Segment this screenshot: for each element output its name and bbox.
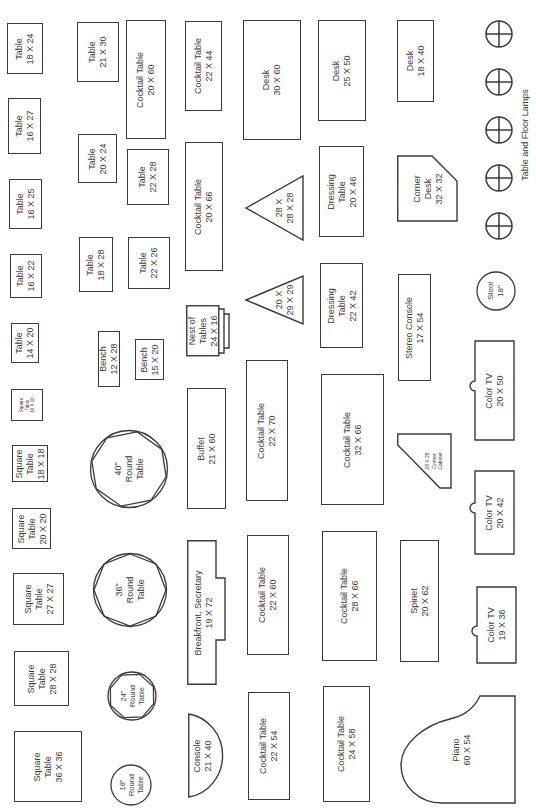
label: Desk 25 X 50: [331, 55, 353, 86]
label: 36" Round Table: [114, 577, 147, 604]
corner-desk: Corner Desk 32 X 32: [397, 155, 459, 222]
label: Piano 60 X 54: [451, 734, 473, 765]
cocktail-table-24x58: Cocktail Table 24 X 58: [323, 686, 370, 802]
cocktail-table-32x66: Cocktail Table 32 X 66: [321, 374, 384, 505]
label: Nest of Tables 24 X 16: [187, 315, 220, 346]
round-table-24in: 24" Round Table: [107, 671, 157, 721]
label: Desk 18 X 40: [405, 45, 427, 76]
console: Console 21 X 40: [188, 713, 228, 798]
label: Table 16 X 22: [15, 260, 37, 291]
lamp-icon: [486, 165, 512, 191]
label: Breakfront, Secretary 19 X 72: [193, 570, 215, 655]
lamp-icons: [484, 20, 514, 240]
label: Table 22 X 28: [137, 161, 159, 192]
lamp-icon: [486, 21, 512, 47]
lamps-caption: Table and Floor Lamps: [520, 80, 530, 190]
corner-cabinet: 28 X 28 Corner Cabinet: [397, 433, 452, 489]
table-21x30: Table 21 X 30: [77, 22, 119, 82]
label: Color TV 20 X 50: [484, 373, 506, 408]
table-18x28: Table 18 X 28: [79, 237, 113, 292]
label: Cocktail Table 22 X 54: [258, 718, 280, 774]
lamp-icon: [486, 117, 512, 143]
label: 28 X 28 X 28: [274, 192, 296, 223]
label: Table 18 X 28: [85, 249, 107, 280]
label: Square Table 16 X 16: [19, 397, 36, 413]
table-16x25: Table 16 X 25: [9, 179, 42, 229]
dressing-table-22x42: Dressing Table 22 X 42: [320, 263, 363, 348]
table-22x28: Table 22 X 28: [127, 149, 169, 205]
lamp-icon: [486, 69, 512, 95]
square-table-36x36: Square Table 36 X 36: [14, 731, 82, 802]
label: Bench 12 X 28: [98, 343, 120, 374]
label: Cocktail Table 22 X 70: [256, 403, 278, 459]
lamp-icon: [486, 213, 512, 239]
label: Stool 18": [486, 282, 506, 300]
label: Table 20 X 24: [87, 143, 109, 174]
table-20x24: Table 20 X 24: [78, 134, 117, 183]
label: Color TV 20 X 42: [484, 495, 506, 530]
label: Cocktail Table 32 X 66: [342, 412, 364, 468]
label: Bench 15 X 20: [139, 344, 161, 375]
label: Dressing Table 20 X 46: [325, 174, 358, 210]
label: Square Table 18 X 18: [14, 448, 47, 479]
label: Table 21 X 30: [87, 36, 109, 67]
label: 20 X 29 X 29: [274, 284, 296, 315]
label: Spinet 20 X 62: [409, 585, 431, 616]
table-22x26: Table 22 X 26: [128, 237, 170, 289]
cocktail-table-28x66: Cocktail Table 28 X 66: [322, 531, 377, 661]
stereo-console: Stereo Console 17 X 54: [398, 274, 431, 381]
label: Stereo Console 17 X 54: [404, 296, 426, 358]
label: Cocktail Table 28 X 66: [339, 568, 361, 624]
label: 40" Round Table: [113, 456, 146, 483]
label: Cocktail Table 22 X 44: [193, 38, 215, 94]
nest-of-tables: Nest of Tables 24 X 16: [186, 305, 231, 357]
label: 18" Round Table: [118, 774, 145, 796]
square-table-28x28: Square Table 28 X 28: [14, 651, 69, 706]
desk-30x60: Desk 30 X 60: [243, 20, 301, 140]
label: Table 18 X 24: [14, 33, 36, 64]
label: Corner Desk 32 X 32: [412, 173, 445, 204]
label: 28 X 28 Corner Cabinet: [424, 452, 444, 469]
piano: Piano 60 X 54: [400, 695, 516, 805]
label: Square Table 36 X 36: [32, 751, 65, 782]
label: Square Table 20 X 20: [15, 513, 48, 544]
triangle-table-20: 20 X 29 X 29: [245, 275, 305, 325]
label: Color TV 19 X 36: [486, 607, 508, 642]
cocktail-table-20x66: Cocktail Table 20 X 66: [185, 142, 223, 271]
label: Square Table 28 X 28: [25, 663, 58, 694]
bench-15x20: Bench 15 X 20: [135, 339, 164, 380]
label: Table 16 X 25: [15, 188, 37, 219]
cocktail-table-20x60: Cocktail Table 20 X 60: [126, 20, 166, 139]
color-tv-20x42: Color TV 20 X 42: [469, 470, 515, 555]
stool: Stool 18": [476, 270, 516, 312]
label: 24" Round Table: [119, 685, 146, 707]
round-table-18in: 18" Round Table: [110, 764, 152, 806]
round-table-36in: 36" Round Table: [92, 552, 168, 628]
cocktail-table-22x60: Cocktail Table 22 X 60: [247, 535, 289, 655]
round-table-40in: 40" Round Table: [89, 429, 169, 509]
desk-18x40: Desk 18 X 40: [397, 20, 434, 102]
table-14x20: Table 14 X 20: [11, 323, 39, 363]
triangle-table-28: 28 X 28 X 28: [245, 175, 305, 241]
cocktail-table-22x54: Cocktail Table 22 X 54: [248, 692, 290, 800]
spinet: Spinet 20 X 62: [400, 540, 439, 662]
table-16x27: Table 16 X 27: [8, 98, 41, 154]
label: Table 16 X 27: [14, 110, 36, 141]
label: Cocktail Table 20 X 60: [135, 52, 157, 108]
bench-12x28: Bench 12 X 28: [98, 331, 120, 387]
square-table-16x16: Square Table 16 X 16: [11, 389, 43, 421]
label: Table 22 X 26: [138, 247, 160, 278]
desk-25x50: Desk 25 X 50: [318, 20, 366, 121]
label: Square Table 27 X 27: [22, 583, 55, 614]
buffet: Buffet 21 X 60: [187, 388, 226, 509]
square-table-27x27: Square Table 27 X 27: [13, 573, 64, 625]
breakfront-secretary: Breakfront, Secretary 19 X 72: [187, 540, 229, 685]
table-18x24: Table 18 X 24: [7, 23, 43, 74]
label: Cocktail Table 22 X 60: [257, 567, 279, 623]
label: Console 21 X 40: [192, 739, 214, 772]
label: Cocktail Table 24 X 58: [336, 716, 358, 772]
label: Table 14 X 20: [14, 327, 36, 358]
table-16x22: Table 16 X 22: [10, 254, 42, 298]
color-tv-20x50: Color TV 20 X 50: [469, 340, 515, 441]
label: Dressing Table 22 X 42: [325, 288, 358, 324]
